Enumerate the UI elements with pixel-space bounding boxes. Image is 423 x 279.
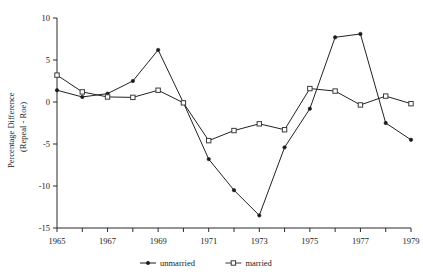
y-tick-label: -10 (39, 181, 50, 191)
x-tick-label: 1965 (49, 236, 66, 246)
y-tick-label: 10 (42, 13, 51, 23)
marker-married (207, 138, 211, 142)
marker-married (232, 128, 236, 132)
marker-unmarried (232, 189, 235, 192)
chart-axes (57, 18, 411, 228)
marker-unmarried (131, 79, 134, 82)
x-tick-label: 1977 (352, 236, 369, 246)
legend-marker-unmarried (146, 261, 149, 264)
legend-label-unmarried: unmarried (160, 258, 196, 268)
series-line-unmarried (57, 34, 411, 215)
marker-married (384, 94, 388, 98)
legend-label-married: married (245, 258, 272, 268)
x-tick-label: 1967 (99, 236, 116, 246)
marker-married (156, 88, 160, 92)
x-axis-ticks (57, 228, 411, 232)
chart-legend: unmarriedmarried (140, 258, 273, 268)
y-axis-title-line2: (Repeal - Roe) (18, 102, 28, 152)
legend-marker-married (231, 261, 235, 265)
marker-married (181, 101, 185, 105)
marker-married (282, 128, 286, 132)
chart-figure: 1050-5-10-15 196519671969197119731975197… (0, 0, 423, 279)
y-axis-ticks (53, 18, 57, 228)
marker-married (409, 101, 413, 105)
y-tick-label: 5 (46, 55, 50, 65)
line-chart-plot: 1050-5-10-15 196519671969197119731975197… (0, 0, 423, 279)
y-tick-label: -15 (39, 223, 50, 233)
chart-series-markers (55, 32, 413, 217)
marker-unmarried (359, 32, 362, 35)
marker-unmarried (384, 121, 387, 124)
x-axis-tick-labels: 19651967196919711973197519771979 (49, 236, 420, 246)
x-tick-label: 1975 (301, 236, 318, 246)
marker-married (257, 122, 261, 126)
y-axis-tick-labels: 1050-5-10-15 (39, 13, 50, 233)
x-tick-label: 1971 (200, 236, 217, 246)
chart-series-lines (57, 34, 411, 215)
marker-unmarried (308, 107, 311, 110)
y-tick-label: -5 (43, 139, 50, 149)
marker-married (105, 95, 109, 99)
x-tick-label: 1973 (251, 236, 268, 246)
marker-unmarried (207, 157, 210, 160)
marker-unmarried (258, 214, 261, 217)
marker-unmarried (156, 48, 159, 51)
y-axis-title-line1: Percentage Difference (6, 92, 16, 168)
marker-married (55, 73, 59, 77)
marker-married (358, 103, 362, 107)
marker-unmarried (283, 146, 286, 149)
marker-married (80, 90, 84, 94)
marker-unmarried (55, 89, 58, 92)
legend-item-married: married (225, 258, 272, 268)
y-tick-label: 0 (46, 97, 50, 107)
marker-unmarried (81, 95, 84, 98)
marker-married (131, 95, 135, 99)
marker-unmarried (409, 138, 412, 141)
y-axis-title: Percentage Difference (Repeal - Roe) (6, 92, 28, 168)
legend-item-unmarried: unmarried (140, 258, 196, 268)
marker-married (308, 86, 312, 90)
x-tick-label: 1979 (403, 236, 420, 246)
marker-unmarried (333, 36, 336, 39)
marker-married (333, 89, 337, 93)
x-tick-label: 1969 (150, 236, 167, 246)
